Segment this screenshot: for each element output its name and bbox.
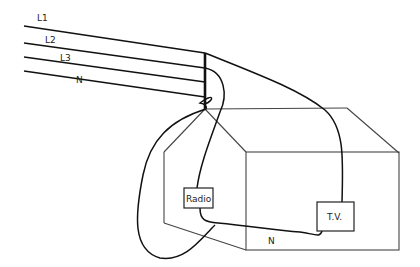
supply-line-n [24,71,205,97]
tv-label: T.V. [326,212,342,222]
label-l3: L3 [60,53,71,63]
label-l2: L2 [45,35,56,45]
label-l1: L1 [37,13,48,23]
wire-l2-radio [197,68,224,188]
neutral-label: N [268,236,275,246]
wire-l1-tv [205,53,343,202]
wire-neutral [200,208,322,235]
label-n-supply: N [76,75,83,85]
wire-n-tap [200,97,212,109]
wiring-diagram: L1 L2 L3 N Radio T.V. N [0,0,420,267]
supply-line-l2 [24,43,205,68]
supply-line-l3 [24,57,205,82]
radio-label: Radio [186,194,212,204]
